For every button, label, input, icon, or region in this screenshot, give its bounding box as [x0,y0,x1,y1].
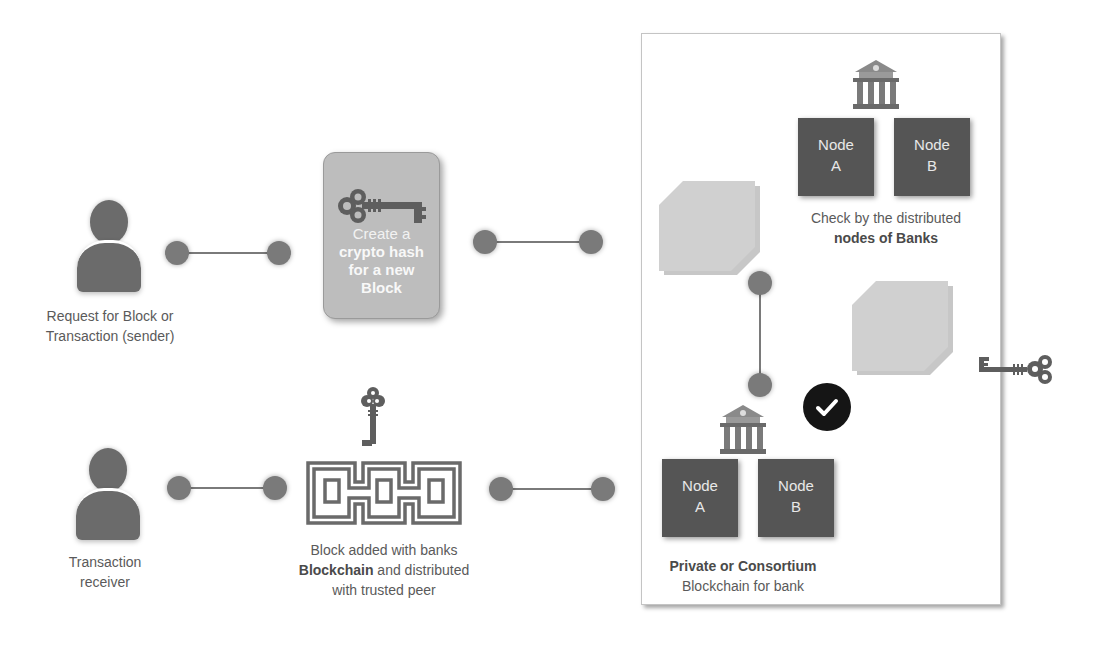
sender-label-line2: Transaction (sender) [25,326,195,346]
hash-line3: for a new [349,261,415,278]
bank-icon [851,58,901,110]
hash-line2: crypto hash [339,243,424,260]
bottom-caption-line1: Private or Consortium [669,558,816,574]
top-bank-caption: Check by the distributed nodes of Banks [786,208,986,248]
bottom-node-b-line2: B [758,496,834,517]
hash-line4: Block [361,279,402,296]
top-node-a-line2: A [798,155,874,176]
top-caption-line1: Check by the distributed [786,208,986,228]
block-shape [657,179,763,275]
bottom-caption-line2: Blockchain for bank [648,576,838,596]
chain-icon [305,460,463,526]
checkmark-icon [803,383,851,431]
blockchain-line1: Block added with banks [268,540,500,560]
connector-vertical [748,271,772,397]
bottom-node-b-line1: Node [758,475,834,496]
connector-hash-panel [473,230,603,254]
top-node-b-line2: B [894,155,970,176]
bottom-node-b: Node B [758,459,834,537]
top-node-a: Node A [798,118,874,196]
block-shape [850,279,956,375]
bottom-bank-caption: Private or Consortium Blockchain for ban… [648,556,838,596]
key-icon [336,189,430,223]
top-node-b: Node B [894,118,970,196]
sender-label-line1: Request for Block or [25,306,195,326]
blockchain-line2-rest: and distributed [373,562,469,578]
sender-label: Request for Block or Transaction (sender… [25,306,195,346]
receiver-label-line2: receiver [40,572,170,592]
receiver-person-icon [76,448,140,540]
key-icon [361,386,385,448]
receiver-label: Transaction receiver [40,552,170,592]
blockchain-line2-bold: Blockchain [299,562,374,578]
connector-sender-hash [165,241,291,265]
key-icon [979,353,1059,387]
sender-person-icon [77,200,141,292]
hash-line1: Create a [324,225,439,243]
blockchain-line3: with trusted peer [268,580,500,600]
connector-chain-panel [489,477,615,501]
bottom-node-a-line1: Node [662,475,738,496]
connector-receiver-chain [167,476,287,500]
bottom-node-a: Node A [662,459,738,537]
top-node-a-line1: Node [798,134,874,155]
bank-icon [718,403,768,455]
top-caption-line2: nodes of Banks [834,230,938,246]
top-node-b-line1: Node [894,134,970,155]
blockchain-label: Block added with banks Blockchain and di… [268,540,500,600]
hash-card-text: Create a crypto hash for a new Block [324,225,439,297]
bottom-node-a-line2: A [662,496,738,517]
receiver-label-line1: Transaction [40,552,170,572]
hash-card: Create a crypto hash for a new Block [323,152,440,319]
